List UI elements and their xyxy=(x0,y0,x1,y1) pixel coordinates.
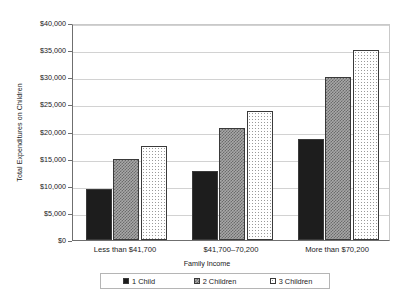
chart-title xyxy=(0,0,414,2)
x-axis-category-label: $41,700–70,200 xyxy=(171,245,291,254)
y-axis-tick-label: $35,000 xyxy=(6,48,66,55)
x-axis-category-label: More than $70,200 xyxy=(277,245,397,254)
bar xyxy=(247,111,273,240)
y-axis-tick-label: $40,000 xyxy=(6,20,66,27)
bar xyxy=(192,171,218,240)
y-axis-tick-mark xyxy=(68,241,72,242)
legend-item[interactable]: 1 Child xyxy=(101,277,177,286)
bar xyxy=(141,146,167,240)
bar xyxy=(353,50,379,240)
y-axis-tick-label: $0 xyxy=(6,237,66,244)
y-axis-tick-label: $5,000 xyxy=(6,210,66,217)
legend-item[interactable]: 2 Children xyxy=(177,277,253,286)
bar xyxy=(86,189,112,240)
x-axis-category-label: Less than $41,700 xyxy=(65,245,185,254)
bar xyxy=(219,128,245,240)
x-axis-title: Family Income xyxy=(0,259,414,268)
legend-label: 1 Child xyxy=(132,277,155,286)
bars-layer xyxy=(73,25,389,240)
legend-swatch-icon xyxy=(123,278,129,284)
y-axis-tick-label: $30,000 xyxy=(6,75,66,82)
legend-item[interactable]: 3 Children xyxy=(253,277,329,286)
chart-legend: 1 Child2 Children3 Children xyxy=(100,273,330,289)
legend-label: 2 Children xyxy=(203,277,237,286)
plot-area xyxy=(72,24,390,241)
legend-label: 3 Children xyxy=(279,277,313,286)
bar xyxy=(113,159,139,240)
y-axis-tick-label: $20,000 xyxy=(6,129,66,136)
legend-swatch-icon xyxy=(270,278,276,284)
y-axis-tick-label: $25,000 xyxy=(6,102,66,109)
bar-chart: Total Expenditures on Children $0$5,000$… xyxy=(0,0,414,302)
bar xyxy=(325,77,351,240)
legend-swatch-icon xyxy=(194,278,200,284)
bar xyxy=(298,139,324,240)
y-axis-tick-label: $10,000 xyxy=(6,183,66,190)
y-axis-tick-label: $15,000 xyxy=(6,156,66,163)
